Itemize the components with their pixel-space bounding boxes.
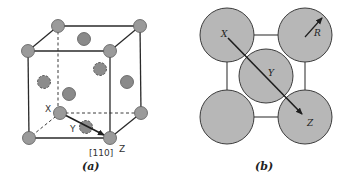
atom-corner-top-back-right — [134, 20, 147, 33]
atom-face-back — [94, 63, 107, 76]
atom-face-bottom-y — [80, 121, 93, 134]
atom-corner-top-front-left — [22, 45, 35, 58]
atom-corner-bottom-back-left-x — [54, 107, 67, 120]
atom-face-top — [78, 33, 91, 46]
atom-corner-top-front-right — [104, 45, 117, 58]
edge-back-right — [140, 26, 141, 113]
panel-a: X Y Z [110] (a) — [22, 20, 148, 174]
edge-front-left — [28, 51, 29, 138]
label-direction-110: [110] — [89, 148, 113, 158]
atom-b-top-right — [278, 8, 332, 62]
atom-face-right — [121, 76, 134, 89]
caption-a: (a) — [82, 160, 100, 173]
label-radius: R — [313, 28, 321, 38]
label-x-b: X — [220, 29, 228, 39]
label-z-b: Z — [306, 118, 314, 128]
atom-face-front — [63, 88, 76, 101]
label-x-a: X — [45, 104, 51, 114]
atom-face-left — [38, 76, 51, 89]
panel-b: X Y Z R (b) — [200, 8, 332, 173]
atom-corner-bottom-front-right-z — [104, 132, 117, 145]
atom-corner-top-back-left — [52, 20, 65, 33]
atom-b-bottom-left — [200, 90, 254, 144]
caption-b: (b) — [255, 160, 273, 173]
label-y-b: Y — [268, 68, 275, 78]
crystal-diagram: X Y Z [110] (a) X Y Z R (b) — [0, 0, 342, 184]
label-y-a: Y — [69, 124, 76, 134]
atom-corner-bottom-front-left — [23, 132, 36, 145]
atom-corner-bottom-back-right — [135, 107, 148, 120]
label-z-a: Z — [119, 144, 125, 154]
